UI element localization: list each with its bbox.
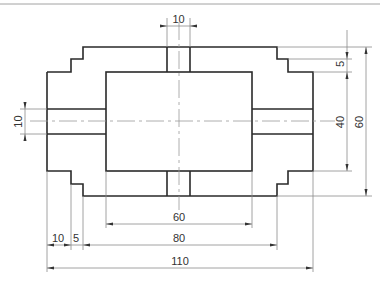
dim-label-inner-width: 60 xyxy=(173,211,185,223)
arrowhead xyxy=(306,267,313,270)
dim-label-top-slot: 10 xyxy=(172,13,184,25)
dim-label-middle-width: 80 xyxy=(173,232,185,244)
arrowhead xyxy=(245,223,252,226)
dim-label-inner-height: 40 xyxy=(334,116,346,128)
dim-label-overall-height: 60 xyxy=(353,116,365,128)
arrowhead xyxy=(64,244,71,247)
arrowhead xyxy=(47,267,54,270)
dim-label-step-width-1: 10 xyxy=(52,232,64,244)
dim-label-overall-width: 110 xyxy=(171,255,189,267)
dim-label-side-slot: 10 xyxy=(12,115,24,127)
arrowhead xyxy=(106,223,113,226)
arrowhead xyxy=(365,189,368,196)
arrowhead xyxy=(270,244,277,247)
arrowhead xyxy=(346,52,349,59)
arrowhead xyxy=(365,47,368,54)
arrowhead xyxy=(83,244,90,247)
arrowhead xyxy=(24,102,27,109)
dim-label-step-height: 5 xyxy=(334,61,346,67)
technical-drawing: 10 5 40 60 10 60 10 5 80 110 xyxy=(0,0,380,282)
dim-label-step-width-2: 5 xyxy=(73,232,79,244)
arrowhead xyxy=(346,72,349,79)
arrowhead xyxy=(346,164,349,171)
arrowhead xyxy=(24,134,27,141)
arrowhead xyxy=(160,25,167,28)
outer-outline xyxy=(47,47,313,196)
arrowhead xyxy=(190,25,197,28)
